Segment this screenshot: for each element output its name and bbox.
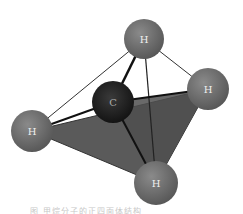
atom-c-center: C — [92, 81, 134, 123]
atom-label: H — [28, 126, 37, 137]
atom-h-bottom: H — [134, 161, 178, 205]
atom-h-top: H — [124, 19, 164, 59]
figure-caption: 图 甲烷分子的正四面体结构 — [30, 205, 210, 214]
methane-diagram: H H H C H — [0, 0, 243, 214]
atom-label: C — [109, 97, 117, 108]
atom-h-left: H — [11, 110, 53, 152]
atom-h-right: H — [187, 68, 229, 110]
atom-label: H — [152, 178, 161, 189]
atom-label: H — [204, 84, 213, 95]
atom-label: H — [140, 34, 149, 45]
